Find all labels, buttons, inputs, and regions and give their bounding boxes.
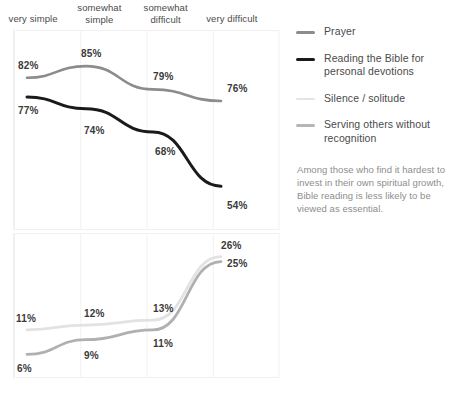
legend-label: Serving others without recognition <box>324 118 454 145</box>
data-label: 54% <box>227 200 248 211</box>
upper-chart-plot: 82%85%79%76%77%74%68%54% <box>13 30 279 230</box>
legend-swatch-icon <box>296 98 315 101</box>
legend-swatch-icon <box>296 58 315 61</box>
data-label: 26% <box>221 240 242 251</box>
series-line-1 <box>27 97 221 186</box>
data-label: 9% <box>84 350 99 361</box>
legend-item-1[interactable]: Reading the Bible for personal devotions <box>296 52 454 79</box>
data-label: 79% <box>153 71 174 82</box>
data-label: 11% <box>153 338 173 349</box>
chart-annotation: Among those who find it hardest to inves… <box>297 163 449 215</box>
lower-panel-svg <box>14 233 279 378</box>
data-label: 85% <box>81 48 102 59</box>
legend-item-0[interactable]: Prayer <box>296 25 454 39</box>
column-header-line1: very difficult <box>189 13 275 25</box>
data-label: 77% <box>18 105 39 116</box>
data-label: 68% <box>155 146 176 157</box>
data-label: 12% <box>84 308 105 319</box>
data-label: 13% <box>153 303 174 314</box>
legend-item-2[interactable]: Silence / solitude <box>296 92 454 106</box>
column-header-3: very difficult <box>189 13 275 25</box>
chart-page: very simplesomewhatsimplesomewhatdifficu… <box>0 0 457 393</box>
data-label: 76% <box>227 83 248 94</box>
series-line-0 <box>27 257 221 330</box>
series-line-1 <box>27 262 221 355</box>
series-line-0 <box>27 66 221 101</box>
data-label: 11% <box>16 313 36 324</box>
data-label: 82% <box>18 60 39 71</box>
lower-chart-plot: 11%12%13%26%6%9%11%25% <box>13 233 279 378</box>
column-headers: very simplesomewhatsimplesomewhatdifficu… <box>0 0 290 30</box>
column-header-line1: somewhat <box>123 2 209 14</box>
data-label: 6% <box>17 363 32 374</box>
legend-swatch-icon <box>296 31 315 34</box>
data-label: 25% <box>227 258 248 269</box>
legend-item-3[interactable]: Serving others without recognition <box>296 118 454 145</box>
legend-label: Prayer <box>324 25 356 39</box>
legend-swatch-icon <box>296 124 315 127</box>
data-label: 74% <box>84 125 105 136</box>
chart-legend: PrayerReading the Bible for personal dev… <box>296 25 454 158</box>
legend-label: Silence / solitude <box>324 92 405 106</box>
legend-label: Reading the Bible for personal devotions <box>324 52 454 79</box>
